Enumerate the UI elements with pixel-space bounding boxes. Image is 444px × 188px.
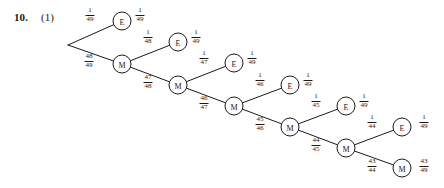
fraction-denominator: 49 <box>304 81 313 89</box>
tree-branch-root-to-E1 <box>68 25 114 45</box>
tree-node-m6 <box>393 159 411 177</box>
edge-probability-p-M4-M5: 4445 <box>312 137 321 153</box>
outcome-probability-out-E6: 149 <box>420 114 429 130</box>
tree-branch-M2-to-E3 <box>186 66 225 81</box>
fraction-denominator: 45 <box>312 102 321 110</box>
outcome-probability-out-E1: 149 <box>136 7 145 23</box>
tree-node-e5 <box>337 97 355 115</box>
outcome-probability-out-E4: 149 <box>304 72 313 88</box>
edge-probability-p-root-E1: 149 <box>86 7 95 23</box>
edge-probability-p-M2-M3: 4647 <box>200 95 209 111</box>
fraction-denominator: 49 <box>86 16 95 24</box>
edge-probability-p-M1-E2: 148 <box>144 29 153 45</box>
edge-probability-p-M2-E3: 147 <box>200 50 209 66</box>
fraction-denominator: 46 <box>256 125 265 133</box>
tree-node-m1 <box>113 55 131 73</box>
outcome-probability-out-E5: 149 <box>360 93 369 109</box>
tree-node-m3 <box>225 97 243 115</box>
fraction-denominator: 46 <box>256 81 265 89</box>
fraction-denominator: 49 <box>85 62 94 70</box>
edge-probability-p-root-M1: 4849 <box>85 53 94 69</box>
tree-node-m4 <box>281 118 299 136</box>
outcome-probability-out-E3: 149 <box>248 50 257 66</box>
tree-node-m5 <box>337 139 355 157</box>
probability-tree-figure: 10. (1) 14948491484748147464714645461454… <box>0 0 444 188</box>
fraction-denominator: 44 <box>368 123 377 131</box>
edge-probability-p-M3-M4: 4546 <box>256 116 265 132</box>
question-part: (1) <box>41 11 54 23</box>
fraction-denominator: 47 <box>200 104 209 112</box>
fraction-denominator: 48 <box>144 83 153 91</box>
fraction-denominator: 45 <box>312 146 321 154</box>
edge-probability-p-M1-M2: 4748 <box>144 74 153 90</box>
fraction-denominator: 44 <box>368 167 377 175</box>
fraction-denominator: 47 <box>200 59 209 67</box>
tree-node-e6 <box>393 118 411 136</box>
tree-branch-M4-to-E5 <box>298 109 337 124</box>
fraction-denominator: 48 <box>144 38 153 46</box>
outcome-probability-out-E2: 149 <box>192 29 201 45</box>
fraction-denominator: 49 <box>360 102 369 110</box>
edge-probability-p-M5-M6: 4344 <box>368 158 377 174</box>
edge-probability-p-M4-E5: 145 <box>312 93 321 109</box>
tree-node-e1 <box>113 12 131 30</box>
fraction-denominator: 49 <box>248 59 257 67</box>
tree-branch-M5-to-E6 <box>354 130 393 145</box>
edge-probability-p-M3-E4: 146 <box>256 72 265 88</box>
question-number: 10. <box>14 11 28 23</box>
tree-branch-M3-to-E4 <box>242 88 281 103</box>
tree-branch-M1-to-E2 <box>130 45 169 60</box>
tree-svg-canvas <box>0 0 444 188</box>
edge-probability-p-M5-E6: 144 <box>368 114 377 130</box>
tree-node-e2 <box>169 33 187 51</box>
outcome-probability-out-M6: 4349 <box>420 158 429 174</box>
tree-node-m2 <box>169 76 187 94</box>
fraction-denominator: 49 <box>136 16 145 24</box>
fraction-denominator: 49 <box>192 38 201 46</box>
tree-node-e4 <box>281 76 299 94</box>
fraction-denominator: 49 <box>420 167 429 175</box>
tree-node-e3 <box>225 54 243 72</box>
fraction-denominator: 49 <box>420 123 429 131</box>
